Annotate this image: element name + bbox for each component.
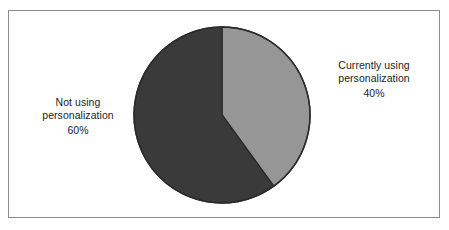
pie-label-not-using-line1: Not using xyxy=(20,96,136,109)
pie-label-not-using: Not using personalization 60% xyxy=(20,96,136,137)
pie-label-currently-using-line1: Currently using xyxy=(316,59,432,72)
pie-label-not-using-percent: 60% xyxy=(20,124,136,137)
pie-chart: Currently using personalization 40% Not … xyxy=(0,0,449,230)
pie-label-currently-using: Currently using personalization 40% xyxy=(316,59,432,100)
pie-label-not-using-line2: personalization xyxy=(20,109,136,122)
pie-label-currently-using-percent: 40% xyxy=(316,87,432,100)
pie-label-currently-using-line2: personalization xyxy=(316,72,432,85)
figure-root: Currently using personalization 40% Not … xyxy=(0,0,449,230)
